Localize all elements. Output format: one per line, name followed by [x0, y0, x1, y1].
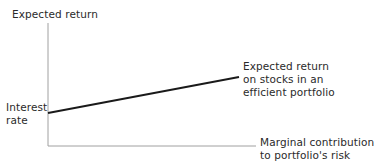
line-label-line3: efficient portfolio	[243, 86, 335, 99]
intercept-label: Interest rate	[6, 101, 47, 127]
line-label-line2: on stocks in an	[243, 73, 335, 86]
x-axis-label: Marginal contribution to portfolio's ris…	[260, 136, 374, 162]
line-label-line1: Expected return	[243, 60, 335, 73]
y-axis-label: Expected return	[12, 8, 98, 21]
intercept-label-line1: Interest	[6, 101, 47, 114]
x-axis-label-line1: Marginal contribution	[260, 136, 374, 149]
intercept-label-line2: rate	[6, 114, 47, 127]
x-axis-label-line2: to portfolio's risk	[260, 149, 374, 162]
expected-return-line	[48, 77, 239, 113]
line-label: Expected return on stocks in an efficien…	[243, 60, 335, 99]
